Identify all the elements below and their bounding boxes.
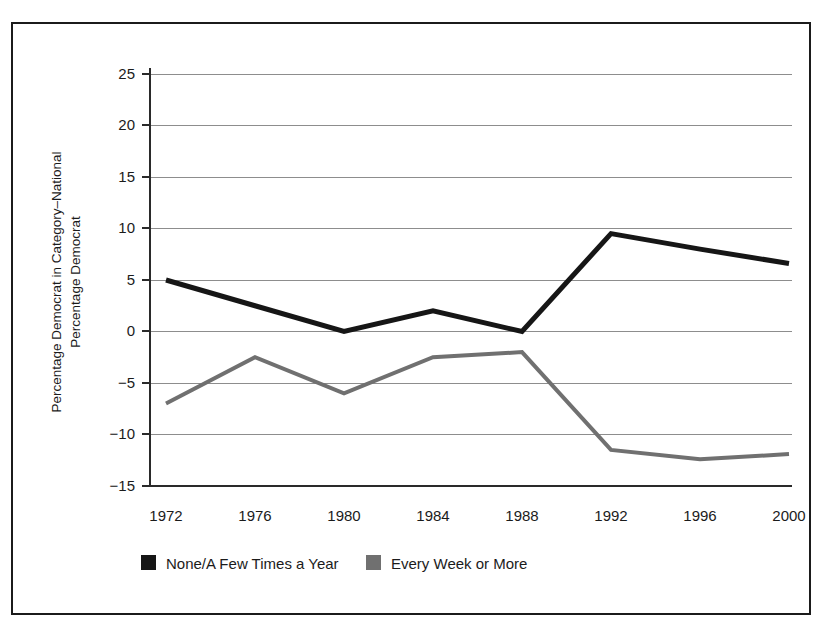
- legend: None/A Few Times a Year Every Week or Mo…: [141, 555, 527, 572]
- x-tick-label-1984: 1984: [416, 507, 449, 524]
- y-tick-marks: [142, 74, 150, 486]
- line-chart: Percentage Democrat in Category–National…: [13, 24, 809, 613]
- x-tick-labels: 1972 1976 1980 1984 1988 1992 1996 2000: [149, 507, 805, 524]
- legend-swatch-none-a-few-times-a-year: [141, 555, 156, 570]
- legend-label-none-a-few-times-a-year: None/A Few Times a Year: [166, 555, 339, 572]
- gridlines: [150, 74, 792, 486]
- y-tick-label-neg5: −5: [118, 374, 135, 391]
- y-tick-labels: 25 20 15 10 5 0 −5 −10 −15: [110, 65, 135, 494]
- y-tick-label-10: 10: [118, 219, 135, 236]
- y-tick-label-20: 20: [118, 116, 135, 133]
- y-axis-title-line1: Percentage Democrat in Category–National: [49, 151, 64, 412]
- chart-frame: Percentage Democrat in Category–National…: [11, 22, 811, 615]
- series-group: [166, 234, 789, 460]
- y-tick-label-neg10: −10: [110, 425, 135, 442]
- y-axis-title-line2: Percentage Democrat: [68, 216, 83, 348]
- y-tick-label-5: 5: [127, 271, 135, 288]
- y-tick-label-neg15: −15: [110, 477, 135, 494]
- x-tick-label-1992: 1992: [594, 507, 627, 524]
- series-line-every-week-or-more: [166, 352, 789, 459]
- y-tick-label-25: 25: [118, 65, 135, 82]
- axes: [150, 68, 792, 486]
- x-tick-label-2000: 2000: [772, 507, 805, 524]
- x-tick-label-1996: 1996: [683, 507, 716, 524]
- y-tick-label-15: 15: [118, 168, 135, 185]
- y-tick-label-0: 0: [127, 322, 135, 339]
- x-tick-label-1976: 1976: [238, 507, 271, 524]
- series-line-none-a-few-times-a-year: [166, 234, 789, 332]
- x-tick-label-1988: 1988: [505, 507, 538, 524]
- figure-root: Percentage Democrat in Category–National…: [0, 0, 822, 641]
- x-tick-label-1972: 1972: [149, 507, 182, 524]
- x-tick-label-1980: 1980: [327, 507, 360, 524]
- legend-label-every-week-or-more: Every Week or More: [391, 555, 527, 572]
- y-axis-title: Percentage Democrat in Category–National…: [49, 151, 83, 412]
- legend-swatch-every-week-or-more: [366, 555, 381, 570]
